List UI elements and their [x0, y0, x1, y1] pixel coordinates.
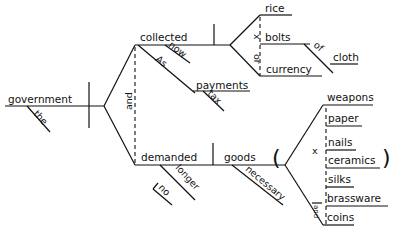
- conjunction-and: and: [123, 92, 134, 110]
- verb-demanded: demanded: [141, 151, 197, 163]
- fork-lower: [104, 106, 135, 165]
- conj-mark-x: x: [252, 34, 263, 40]
- object-currency: currency: [266, 63, 312, 75]
- item-paper: paper: [328, 112, 359, 124]
- object-goods: goods: [224, 151, 256, 163]
- modifier-as: As: [154, 53, 170, 69]
- item-coins: coins: [327, 211, 354, 223]
- sentence-diagram: government the and collected now As paym…: [0, 0, 397, 235]
- subject-word: government: [8, 93, 72, 105]
- item-brassware: brassware: [327, 192, 381, 204]
- modifier-longer: longer: [174, 162, 202, 192]
- modifier-necessary: necessary: [244, 163, 288, 203]
- preposition-of: of: [312, 39, 327, 54]
- object-bolts: bolts: [265, 31, 291, 43]
- goods-conj-mark-and: and: [312, 205, 320, 218]
- goods-conj-mark-x: x: [312, 145, 318, 156]
- item-nails: nails: [328, 136, 352, 148]
- item-ceramics: ceramics: [328, 154, 375, 166]
- object-cloth: cloth: [333, 51, 359, 63]
- item-silks: silks: [328, 173, 351, 185]
- payments-word: payments: [196, 79, 248, 91]
- verb-collected: collected: [140, 31, 188, 43]
- modifier-no: no: [157, 182, 173, 198]
- goods-fork-up: [285, 105, 323, 165]
- object-rice: rice: [265, 2, 284, 14]
- subject-modifier: the: [32, 108, 51, 127]
- paren-open: (: [272, 145, 281, 170]
- conj-mark-or: or: [252, 54, 263, 64]
- paren-close: ): [382, 145, 391, 170]
- item-weapons: weapons: [327, 91, 374, 103]
- obj-fork-up: [230, 15, 260, 45]
